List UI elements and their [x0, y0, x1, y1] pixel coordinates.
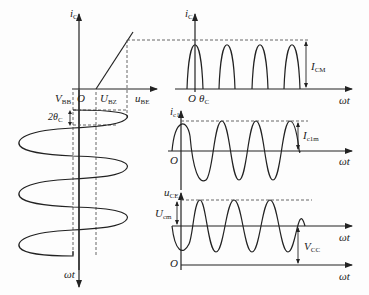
bottom-time-axis-label: ωt	[339, 271, 350, 282]
middle-origin-label: O	[170, 155, 178, 166]
top-origin-label: O	[188, 93, 196, 104]
class-c-amplifier-diagram: iC VBB O UBZ uBE 2θC ωt iC O θC ICM ωt i…	[0, 0, 369, 295]
top-ic-label: iC	[185, 8, 193, 21]
middle-time-axis-label: ωt	[339, 156, 350, 167]
theta-c-label: θC	[199, 93, 209, 106]
pulse-3	[252, 45, 268, 89]
left-origin-label: O	[77, 93, 85, 104]
left-time-axis-label: ωt	[64, 269, 75, 280]
uce-label: uCE	[164, 187, 178, 200]
bottom-mid-time-axis-label: ωt	[339, 232, 350, 243]
conduction-angle-label: 2θC	[48, 112, 63, 124]
pulse-4	[284, 45, 300, 89]
ube-label: uBE	[135, 93, 149, 106]
ic1-label: ic1	[170, 106, 180, 119]
icm-label: ICM	[311, 61, 326, 74]
top-time-axis-label: ωt	[339, 95, 350, 106]
ic1m-label: Ic1m	[303, 130, 319, 143]
pulse-2	[219, 45, 235, 89]
top-right-panel	[175, 14, 352, 92]
bottom-origin-label: O	[170, 258, 178, 269]
left-ic-label: iC	[70, 8, 78, 21]
bottom-right-panel	[172, 193, 352, 270]
ubz-label: UBZ	[100, 93, 117, 106]
vbb-label: VBB	[55, 93, 71, 106]
middle-right-panel	[168, 111, 352, 190]
vcc-label: VCC	[304, 241, 320, 254]
ucm-label: Ucm	[155, 208, 172, 221]
